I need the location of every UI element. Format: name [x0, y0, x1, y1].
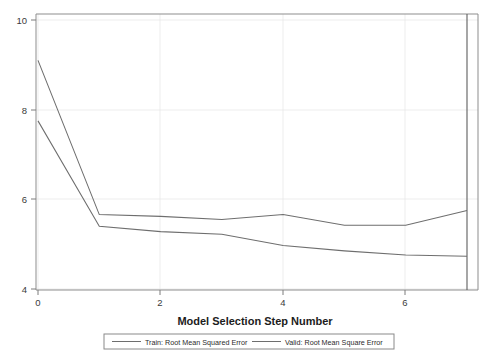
model-selection-rmse-chart: 10 8 6 4 0 2 4 6 Model Selection Step Nu… [0, 0, 498, 363]
x-tick-label-6: 6 [402, 297, 407, 308]
chart-canvas: 10 8 6 4 0 2 4 6 Model Selection Step Nu… [0, 0, 498, 363]
y-tick-label-6: 6 [22, 194, 27, 205]
x-tick-label-4: 4 [280, 297, 285, 308]
x-tick-marks [38, 290, 405, 295]
y-tick-labels: 10 8 6 4 [16, 15, 27, 295]
legend-label-valid: Valid: Root Mean Square Error [285, 338, 383, 347]
legend: Train: Root Mean Squared Error Valid: Ro… [104, 334, 394, 349]
y-tick-label-8: 8 [22, 105, 27, 116]
x-tick-labels: 0 2 4 6 [35, 297, 407, 308]
x-axis-title: Model Selection Step Number [177, 315, 333, 327]
y-tick-label-4: 4 [22, 284, 27, 295]
y-tick-label-10: 10 [16, 15, 27, 26]
y-tick-marks [31, 20, 36, 289]
legend-label-train: Train: Root Mean Squared Error [145, 338, 248, 347]
plot-background [36, 14, 478, 290]
x-tick-label-0: 0 [35, 297, 40, 308]
x-tick-label-2: 2 [157, 297, 162, 308]
